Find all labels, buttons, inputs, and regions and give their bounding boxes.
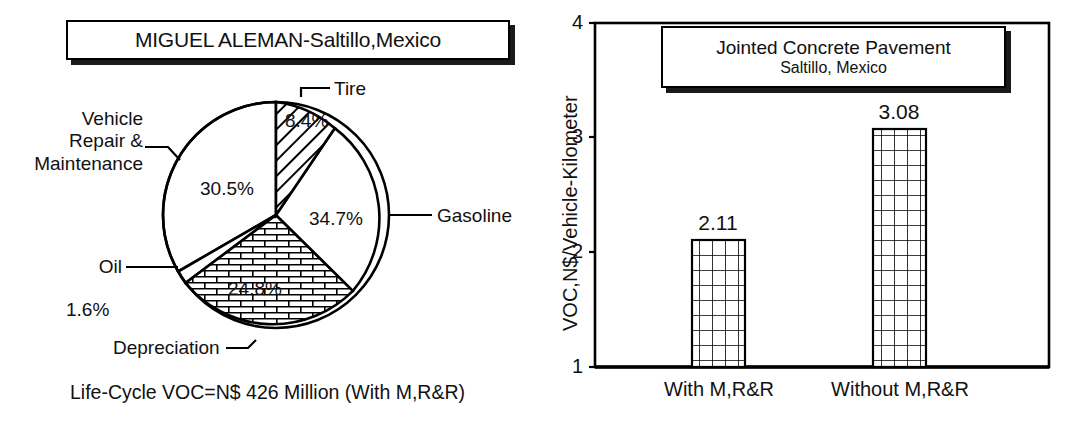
pie-label-vehicle-repair: Vehicle Repair & Maintenance xyxy=(0,108,143,175)
pie-label-oil: Oil xyxy=(60,256,122,278)
y-tick-label-1: 1 xyxy=(557,355,583,378)
y-axis-title: VOC,N$/Vehicle-Kilometer xyxy=(559,95,582,331)
bar-without-mrr xyxy=(873,129,926,367)
bar-title-box: Jointed Concrete Pavement Saltillo, Mexi… xyxy=(661,26,1006,88)
pie-label-depreciation: Depreciation xyxy=(113,337,220,359)
pie-value-gasoline: 34.7% xyxy=(309,208,363,230)
pie-value-tire: 8.4% xyxy=(285,110,328,132)
x-category-label-with-mrr: With M,R&R xyxy=(639,378,799,401)
pie-label-vehicle-repair-line3: Maintenance xyxy=(0,153,143,175)
bar-title-line1: Jointed Concrete Pavement xyxy=(716,37,950,58)
x-category-label-without-mrr: Without M,R&R xyxy=(815,378,985,401)
pie-label-gasoline: Gasoline xyxy=(437,205,512,227)
tire-leader-line xyxy=(301,88,330,97)
bar-with-mrr xyxy=(692,240,745,367)
pie-value-vehicle-repair: 30.5% xyxy=(200,178,254,200)
pie-label-vehicle-repair-line1: Vehicle xyxy=(0,108,143,130)
bar-title-line2: Saltillo, Mexico xyxy=(780,58,887,77)
bar-chart-panel: Jointed Concrete Pavement Saltillo, Mexi… xyxy=(543,0,1086,427)
vehicle-repair-leader-line xyxy=(145,147,180,160)
bar-value-label-with-mrr: 2.11 xyxy=(668,211,768,235)
bar-value-label-without-mrr: 3.08 xyxy=(849,100,949,124)
pie-value-oil: 1.6% xyxy=(66,299,109,321)
y-tick-label-4: 4 xyxy=(557,11,583,34)
pie-chart-panel: MIGUEL ALEMAN-Saltillo,Mexico xyxy=(0,0,543,427)
figure-root: MIGUEL ALEMAN-Saltillo,Mexico xyxy=(0,0,1086,427)
pie-value-depreciation: 24.8% xyxy=(228,278,282,300)
depreciation-leader-line xyxy=(226,340,256,348)
pie-label-vehicle-repair-line2: Repair & xyxy=(0,130,143,152)
pie-label-tire: Tire xyxy=(334,78,366,100)
pie-caption: Life-Cycle VOC=N$ 426 Million (With M,R&… xyxy=(70,381,465,404)
